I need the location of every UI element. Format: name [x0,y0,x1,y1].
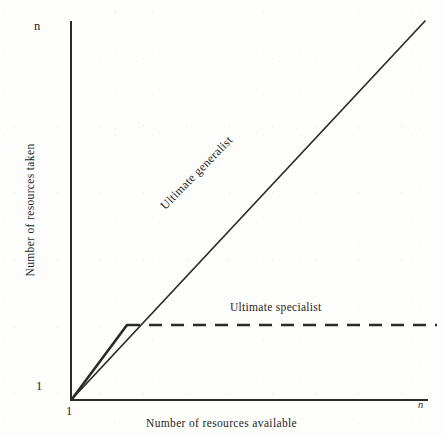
y-axis-tick-top: n [34,19,40,34]
series-ultimate-specialist-rise [72,325,127,399]
scan-grain-overlay [0,0,443,437]
plot-area [0,0,443,437]
x-axis-line [70,399,428,401]
series-ultimate-generalist [72,21,425,399]
annotation-ultimate-specialist: Ultimate specialist [230,301,322,313]
y-axis-title: Number of resources taken [24,110,36,310]
x-axis-title: Number of resources available [0,417,443,429]
annotation-ultimate-generalist: Ultimate generalist [157,133,236,213]
x-axis-tick-right: n [418,399,423,410]
figure-ultimate-generalist-specialist: n 1 1 n Number of resources available Nu… [0,0,443,437]
y-axis-tick-bottom: 1 [36,379,42,394]
y-axis-line [70,21,72,401]
